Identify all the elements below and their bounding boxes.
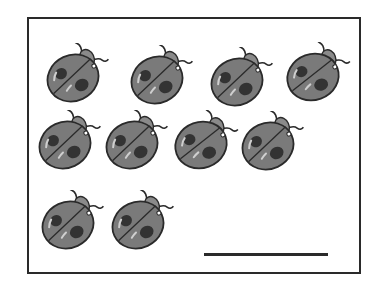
ladybug-icon [228, 111, 308, 181]
ladybug-icon [33, 43, 113, 113]
ladybug-icon [197, 47, 277, 117]
ladybug-icon [273, 42, 353, 112]
answer-blank-line[interactable] [204, 253, 328, 256]
ladybug-icon [28, 190, 108, 260]
ladybug-icon [92, 110, 172, 180]
ladybug-icon [98, 190, 178, 260]
ladybug-icon [117, 45, 197, 115]
